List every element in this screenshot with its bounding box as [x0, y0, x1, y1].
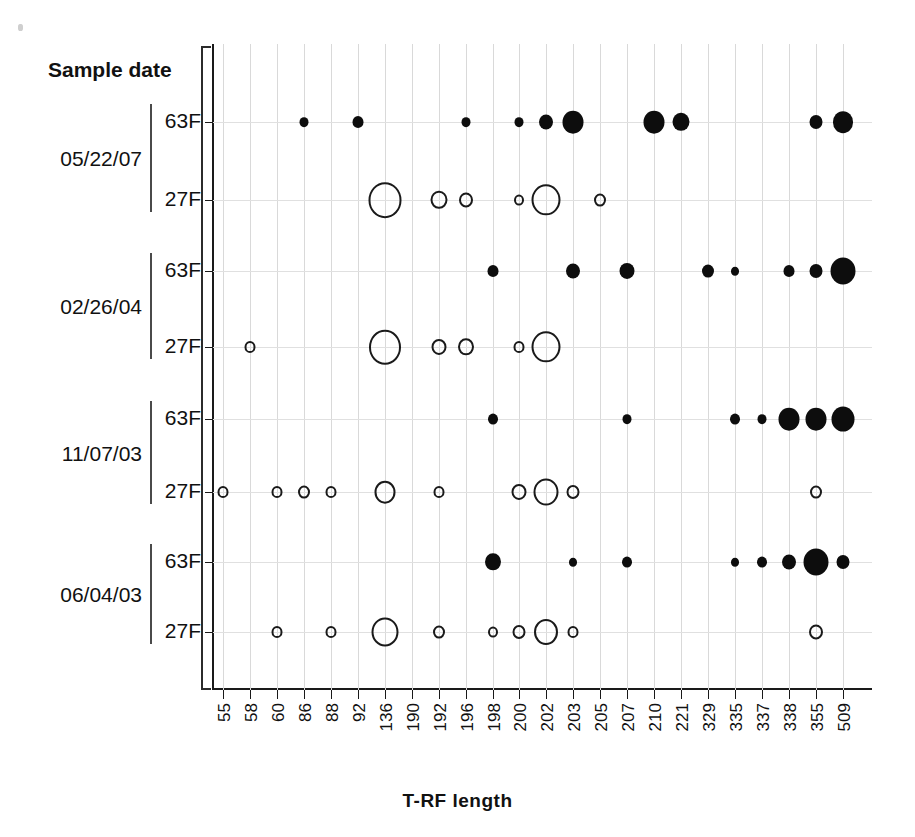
bubble-marker	[836, 555, 849, 569]
x-tick-label: 221	[673, 703, 693, 731]
x-tick	[627, 690, 628, 699]
x-tick-label: 192	[431, 703, 451, 731]
bubble-marker	[594, 194, 606, 207]
x-tick	[546, 690, 547, 699]
x-tick	[735, 690, 736, 699]
x-tick-label: 136	[377, 703, 397, 731]
y-tick-label-27f: 27F	[155, 619, 201, 643]
bubble-marker	[534, 619, 558, 645]
y-tick-label-63f: 63F	[155, 109, 201, 133]
bubble-marker	[757, 557, 767, 568]
bubble-marker	[368, 182, 401, 218]
x-tick	[304, 690, 305, 699]
x-tick-label: 196	[458, 703, 478, 731]
x-tick-label: 355	[808, 703, 828, 731]
date-group-bracket	[150, 104, 152, 212]
y-tick	[205, 492, 213, 493]
bubble-marker	[566, 263, 580, 278]
bubble-marker	[731, 267, 739, 276]
y-tick	[205, 632, 213, 633]
x-tick	[816, 690, 817, 699]
y-axis-outer-bracket	[201, 46, 203, 690]
y-tick-label-63f: 63F	[155, 549, 201, 573]
x-tick-label: 202	[538, 703, 558, 731]
scan-artifact	[18, 24, 23, 31]
x-tick-label: 205	[592, 703, 612, 731]
x-tick-label: 200	[511, 703, 531, 731]
bubble-marker	[810, 486, 822, 499]
x-tick-label: 60	[269, 703, 289, 722]
bubble-marker	[488, 414, 498, 425]
y-tick-label-27f: 27F	[155, 187, 201, 211]
bubble-marker	[244, 341, 255, 353]
x-tick	[573, 690, 574, 699]
x-tick-label: 58	[242, 703, 262, 722]
plot-area	[212, 44, 872, 690]
y-tick-label-63f: 63F	[155, 258, 201, 282]
y-tick	[205, 562, 213, 563]
x-tick	[681, 690, 682, 699]
x-tick	[519, 690, 520, 699]
date-group-bracket	[150, 544, 152, 644]
bubble-marker	[487, 265, 498, 277]
x-tick-label: 337	[754, 703, 774, 731]
bubble-marker	[532, 331, 561, 362]
x-tick-label: 203	[565, 703, 585, 731]
bubble-marker	[809, 115, 822, 129]
bubble-marker	[374, 481, 395, 504]
bubble-marker	[515, 117, 524, 127]
bubble-marker	[809, 624, 823, 639]
y-tick	[205, 122, 213, 123]
y-axis-bracket-cap	[201, 688, 211, 690]
x-tick	[708, 690, 709, 699]
y-axis-title: Sample date	[48, 58, 172, 82]
bubble-marker	[731, 558, 739, 567]
x-tick	[762, 690, 763, 699]
y-tick-label-27f: 27F	[155, 479, 201, 503]
bubble-marker	[218, 486, 229, 498]
x-tick-label: 329	[700, 703, 720, 731]
bubble-marker	[514, 195, 524, 206]
bubble-marker	[299, 117, 308, 127]
x-axis-title: T-RF length	[0, 790, 915, 812]
bubble-marker	[622, 557, 632, 568]
bubble-marker	[461, 117, 470, 127]
x-tick	[358, 690, 359, 699]
bubble-marker	[758, 414, 767, 424]
date-label: 06/04/03	[30, 583, 142, 607]
bubble-marker	[782, 554, 796, 569]
x-tick	[331, 690, 332, 699]
date-label: 05/22/07	[30, 147, 142, 171]
bubble-marker	[369, 330, 401, 365]
bubble-marker	[831, 407, 854, 432]
bubble-marker	[833, 111, 853, 133]
bubble-marker	[513, 625, 526, 639]
bubble-marker	[567, 485, 580, 499]
bubble-marker	[352, 116, 363, 128]
bubble-marker	[433, 486, 444, 498]
bubble-marker	[271, 486, 282, 498]
bubble-marker	[371, 617, 398, 646]
y-tick	[205, 419, 213, 420]
x-tick-label: 210	[646, 703, 666, 731]
y-tick	[205, 271, 213, 272]
x-tick	[493, 690, 494, 699]
bubble-marker	[803, 549, 828, 576]
x-tick	[600, 690, 601, 699]
y-axis-bracket-cap	[201, 46, 211, 48]
date-label: 02/26/04	[30, 295, 142, 319]
bubble-marker	[702, 265, 714, 278]
x-tick-label: 198	[485, 703, 505, 731]
x-tick	[277, 690, 278, 699]
x-tick-label: 86	[296, 703, 316, 722]
bubble-marker	[514, 341, 525, 353]
bubble-marker	[809, 264, 822, 278]
bubble-marker	[644, 111, 665, 134]
bubble-marker	[539, 114, 553, 129]
x-tick	[654, 690, 655, 699]
x-tick-label: 509	[835, 703, 855, 731]
bubble-marker	[778, 408, 799, 431]
x-tick-label: 92	[350, 703, 370, 722]
bubble-marker	[271, 626, 282, 638]
bubble-marker	[325, 486, 336, 498]
